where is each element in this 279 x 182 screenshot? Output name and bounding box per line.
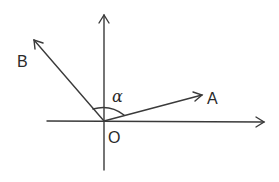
diagram-canvas: B A O α [0,0,279,182]
x-axis [47,121,264,122]
label-b: B [17,53,28,70]
label-alpha: α [112,87,123,106]
label-o: O [108,129,120,146]
diagram-svg: B A O α [0,0,279,182]
label-a: A [207,90,218,107]
